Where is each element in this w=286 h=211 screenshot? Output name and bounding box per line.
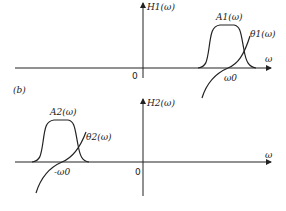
bottom-y-axis-label: H2(ω) xyxy=(146,98,175,108)
top-plot: H1(ω) ω 0 A1(ω) θ1(ω) ω0 xyxy=(15,2,276,98)
panel-label: (b) xyxy=(13,85,26,95)
top-phase-label: θ1(ω) xyxy=(250,29,276,39)
filter-response-diagram: H1(ω) ω 0 A1(ω) θ1(ω) ω0 (b) H2(ω) ω 0 A… xyxy=(0,0,286,211)
top-amplitude-label: A1(ω) xyxy=(215,12,243,22)
bottom-origin-label: 0 xyxy=(135,167,141,177)
bottom-phase-label: θ2(ω) xyxy=(86,132,112,142)
top-origin-label: 0 xyxy=(132,71,138,81)
bottom-plot: H2(ω) ω 0 A2(ω) θ2(ω) -ω0 xyxy=(15,98,273,196)
bottom-amplitude-curve xyxy=(32,120,89,162)
bottom-amplitude-label: A2(ω) xyxy=(49,107,77,117)
top-amplitude-curve xyxy=(198,25,256,68)
bottom-center-label: -ω0 xyxy=(54,167,70,177)
top-y-axis-label: H1(ω) xyxy=(146,2,175,12)
top-x-axis-label: ω xyxy=(265,54,273,64)
top-center-label: ω0 xyxy=(224,73,237,83)
bottom-x-axis-label: ω xyxy=(265,150,273,160)
